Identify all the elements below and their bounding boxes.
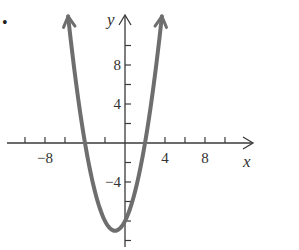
x-axis-label: x <box>242 152 251 171</box>
x-tick-label: 8 <box>201 150 209 166</box>
function-graph: −84884−4 x y <box>0 0 299 250</box>
y-tick-label: 8 <box>114 57 122 73</box>
y-tick-label: −4 <box>105 174 121 190</box>
y-axis-label: y <box>105 10 115 29</box>
x-tick-label: 4 <box>161 150 169 166</box>
y-tick-label: 4 <box>114 96 122 112</box>
parabola-curve <box>64 16 167 230</box>
tick-labels: −84884−4 <box>37 57 209 190</box>
parabola-path <box>68 16 162 230</box>
x-tick-label: −8 <box>37 150 53 166</box>
